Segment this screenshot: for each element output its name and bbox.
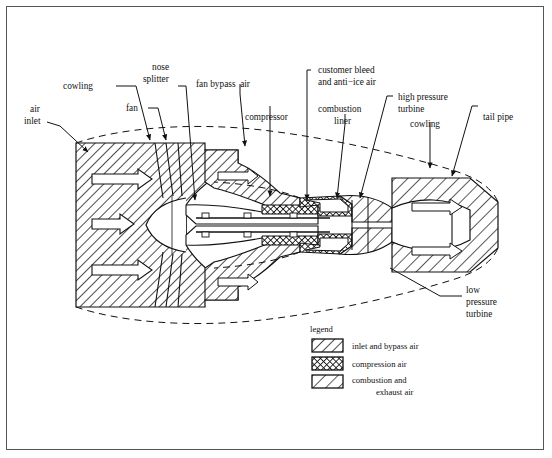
leader-fan: [148, 108, 166, 140]
legend-label-compression: compression air: [352, 359, 407, 369]
engine-cutaway-svg: air inlet cowling fan nose splitter fan …: [0, 0, 552, 458]
label-nose-splitter-line2: splitter: [143, 74, 170, 84]
label-fan: fan: [126, 103, 138, 113]
bypass-lower-hatch: [205, 243, 300, 300]
label-nose-splitter-line1: nose: [152, 62, 169, 72]
leader-cowling-left: [116, 86, 150, 140]
legend-title: legend: [310, 324, 334, 334]
compressor-section: [186, 205, 330, 245]
leader-customer-bleed: [307, 70, 311, 200]
label-cowling-right: cowling: [410, 119, 440, 129]
legend-label-combustion-line1: combustion and: [352, 375, 407, 385]
label-hp-turbine-line1: high pressure: [398, 92, 448, 102]
label-hp-turbine-line2: turbine: [398, 104, 424, 114]
label-air-inlet-line1: air: [30, 104, 41, 114]
legend-swatch-combustion-exhaust: [312, 375, 343, 388]
legend-label-inlet-bypass: inlet and bypass air: [352, 341, 419, 351]
bypass-duct: [205, 150, 300, 300]
leader-combustion-liner: [337, 114, 345, 198]
label-fan-bypass-air: fan bypass air: [196, 79, 251, 89]
label-compressor: compressor: [245, 112, 289, 122]
label-combustion-liner-line2: liner: [334, 116, 352, 126]
legend-swatch-inlet-bypass: [312, 339, 343, 352]
legend-swatch-compression: [312, 357, 343, 370]
label-lp-turbine-line2: pressure: [466, 297, 497, 307]
legend: legend inlet and bypass air compression …: [310, 324, 419, 397]
label-customer-bleed-line2: and anti−ice air: [318, 77, 377, 87]
legend-label-combustion-line2: exhaust air: [376, 387, 414, 397]
label-air-inlet-line2: inlet: [24, 116, 41, 126]
combustion-section: [300, 196, 352, 254]
label-cowling-left: cowling: [63, 81, 93, 91]
label-customer-bleed-line1: customer bleed: [318, 65, 375, 75]
leader-tail-pipe: [452, 106, 478, 176]
label-lp-turbine-line3: turbine: [466, 309, 492, 319]
label-lp-turbine-line1: low: [466, 285, 480, 295]
label-combustion-liner-line1: combustion: [318, 104, 362, 114]
label-tail-pipe: tail pipe: [483, 112, 513, 122]
engine-diagram: air inlet cowling fan nose splitter fan …: [0, 0, 552, 458]
